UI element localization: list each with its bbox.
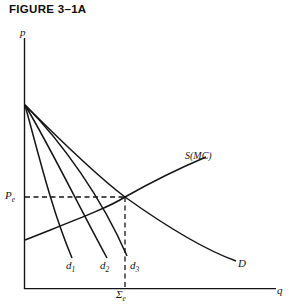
supply-demand-chart [0,0,290,308]
demand-d1-subscript: 1 [72,265,76,274]
x-axis-label: q [277,284,283,296]
equilibrium-price-tick-subscript: e [12,195,15,204]
equilibrium-quantity-tick-label: Σe [116,288,126,300]
figure-container: FIGURE 3–1A p q Pe Σe d1 d2 d3 D S(MC) [0,0,290,308]
demand-d2-subscript: 2 [106,265,110,274]
demand-d2-symbol: d [100,259,106,271]
demand-curve-d3-label: d3 [130,259,139,271]
equilibrium-quantity-tick-symbol: Σ [116,288,123,300]
supply-label-mc: MC [193,150,208,161]
demand-curve-market-label: D [238,257,246,269]
equilibrium-quantity-tick-subscript: e [123,294,126,303]
demand-d3-symbol: d [130,259,136,271]
supply-curve-label: S(MC) [185,150,212,161]
demand-curve-market-D [25,105,236,261]
demand-d1-symbol: d [66,259,72,271]
supply-label-suffix: ) [208,150,211,161]
demand-d3-subscript: 3 [136,265,140,274]
equilibrium-price-tick-label: Pe [5,189,15,201]
equilibrium-price-tick-symbol: P [5,189,12,201]
demand-curve-d2-label: d2 [100,259,109,271]
y-axis-label: p [20,26,26,38]
demand-curve-d1-label: d1 [66,259,75,271]
supply-curve-smc [25,157,206,240]
